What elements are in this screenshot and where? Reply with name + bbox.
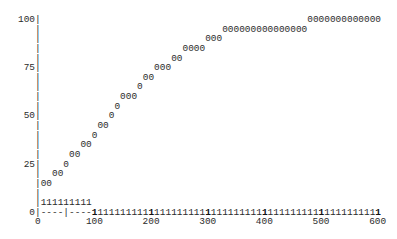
ascii-plot: 100| 0000000000000 | 000000000000000 | 0… — [18, 15, 392, 227]
x-axis-labels: 0 100 200 300 400 500 600 — [18, 217, 392, 227]
